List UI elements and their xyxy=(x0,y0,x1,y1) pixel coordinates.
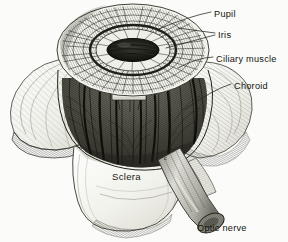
eye-illustration-svg: Pupil Iris Ciliary muscle Choroid Sclera… xyxy=(0,0,288,242)
marker-c-left: c xyxy=(106,156,109,162)
label-sclera: Sclera xyxy=(112,171,141,182)
marker-c-right: c xyxy=(164,155,167,161)
label-iris: Iris xyxy=(218,30,231,40)
label-ciliary-muscle: Ciliary muscle xyxy=(216,54,277,64)
label-choroid: Choroid xyxy=(234,81,268,91)
eye-anatomy-figure: Pupil Iris Ciliary muscle Choroid Sclera… xyxy=(0,0,288,242)
pupil xyxy=(107,39,159,62)
label-pupil: Pupil xyxy=(214,9,236,19)
label-optic-nerve: Optic nerve xyxy=(197,223,247,233)
